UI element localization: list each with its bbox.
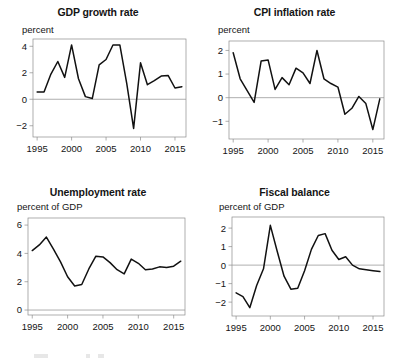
- plot-svg-cpi-inflation-rate: −101219952000200520102015: [196, 0, 393, 180]
- x-axis-tick-label: 1995: [27, 143, 48, 154]
- y-axis-tick-label: 2: [22, 67, 27, 78]
- y-axis-tick-label: 2: [221, 223, 226, 234]
- x-axis-tick-label: 2005: [92, 321, 113, 332]
- plot-area-cpi-inflation-rate: −101219952000200520102015: [196, 0, 393, 180]
- plot-area-gdp-growth-rate: −202419952000200520102015: [0, 0, 196, 180]
- x-axis-tick-label: 2015: [362, 322, 383, 333]
- x-axis-tick-label: 2005: [294, 322, 315, 333]
- x-axis-tick-label: 2000: [260, 322, 281, 333]
- y-axis-tick-label: 4: [22, 41, 27, 52]
- x-axis-tick-label: 2000: [258, 145, 279, 156]
- x-axis-tick-label: 2015: [362, 145, 383, 156]
- x-axis-tick-label: 2000: [57, 321, 78, 332]
- plot-area-fiscal-balance: −2−101219952000200520102015: [196, 180, 393, 359]
- data-series-line: [236, 225, 380, 307]
- x-axis-tick-label: 2015: [164, 143, 185, 154]
- chart-panel-gdp-growth-rate: GDP growth rate percent −202419952000200…: [0, 0, 196, 180]
- y-axis-tick-label: −1: [215, 278, 226, 289]
- y-axis-tick-label: 0: [17, 304, 22, 315]
- y-axis-tick-label: 1: [221, 241, 226, 252]
- x-axis-tick-label: 2010: [130, 143, 151, 154]
- data-series-line: [233, 50, 380, 129]
- y-axis-tick-label: −2: [16, 120, 27, 131]
- x-axis-tick-label: 1995: [22, 321, 43, 332]
- plot-svg-unemployment-rate: 024619952000200520102015: [0, 180, 196, 359]
- data-series-line: [37, 45, 182, 128]
- plot-frame: [229, 41, 384, 139]
- chart-panel-unemployment-rate: Unemployment rate percent of GDP 0246199…: [0, 180, 196, 359]
- y-axis-tick-label: −2: [215, 297, 226, 308]
- y-axis-tick-label: 4: [17, 248, 22, 259]
- y-axis-tick-label: −1: [212, 116, 223, 127]
- plot-area-unemployment-rate: 024619952000200520102015: [0, 180, 196, 359]
- x-axis-tick-label: 2000: [61, 143, 82, 154]
- y-axis-tick-label: 6: [17, 219, 22, 230]
- x-axis-tick-label: 2005: [95, 143, 116, 154]
- chart-panel-cpi-inflation-rate: CPI inflation rate percent −101219952000…: [196, 0, 393, 180]
- chart-grid: GDP growth rate percent −202419952000200…: [0, 0, 393, 359]
- x-axis-tick-label: 1995: [226, 322, 247, 333]
- x-axis-tick-label: 2010: [328, 322, 349, 333]
- plot-frame: [232, 217, 384, 316]
- y-axis-tick-label: 2: [17, 276, 22, 287]
- plot-svg-gdp-growth-rate: −202419952000200520102015: [0, 0, 196, 180]
- x-axis-tick-label: 2005: [292, 145, 313, 156]
- y-axis-tick-label: 1: [218, 68, 223, 79]
- x-axis-tick-label: 1995: [223, 145, 244, 156]
- x-axis-tick-label: 2010: [128, 321, 149, 332]
- data-series-line: [32, 237, 181, 286]
- x-axis-tick-label: 2015: [163, 321, 184, 332]
- chart-panel-fiscal-balance: Fiscal balance percent of GDP −2−1012199…: [196, 180, 393, 359]
- y-axis-tick-label: 0: [221, 260, 226, 271]
- y-axis-tick-label: 2: [218, 45, 223, 56]
- x-axis-tick-label: 2010: [327, 145, 348, 156]
- y-axis-tick-label: 0: [22, 94, 27, 105]
- y-axis-tick-label: 0: [218, 92, 223, 103]
- plot-svg-fiscal-balance: −2−101219952000200520102015: [196, 180, 393, 359]
